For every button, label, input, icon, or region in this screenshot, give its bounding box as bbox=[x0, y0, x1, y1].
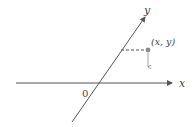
point-marker bbox=[146, 48, 151, 53]
point-label: (x, y) bbox=[151, 36, 175, 47]
origin-label: 0 bbox=[82, 88, 88, 99]
oblique-axes-diagram: x y 0 (x, y) bbox=[0, 0, 194, 127]
x-axis-label: x bbox=[179, 77, 186, 90]
y-axis-line bbox=[72, 17, 145, 122]
y-axis-label: y bbox=[143, 4, 151, 17]
y-axis bbox=[72, 17, 145, 122]
